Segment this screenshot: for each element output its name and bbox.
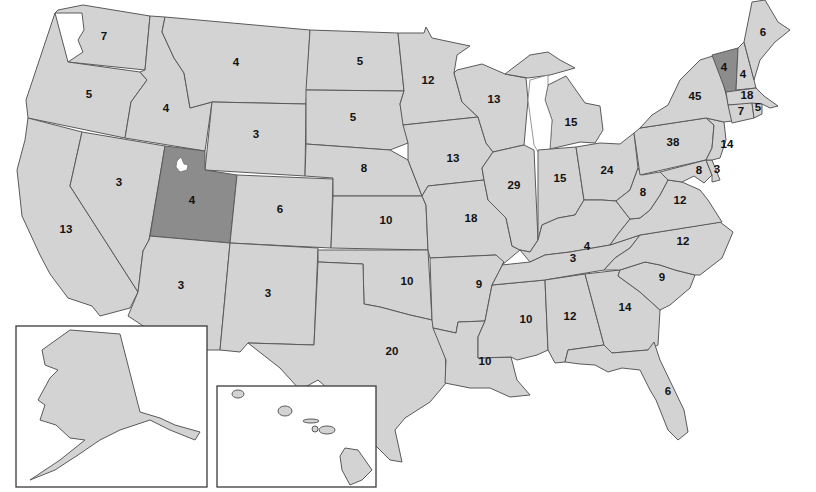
state-label-ms: 10 — [520, 313, 533, 325]
state-label-tx: 20 — [386, 345, 399, 357]
state-michigan-upper[interactable] — [505, 52, 575, 78]
state-label-ar: 9 — [476, 278, 482, 290]
state-label-or: 5 — [86, 88, 93, 100]
state-label-mi: 15 — [565, 116, 578, 128]
state-label-al: 12 — [564, 310, 577, 322]
state-label-id: 4 — [163, 102, 170, 114]
state-label-ut: 4 — [189, 194, 196, 206]
state-label-ks: 10 — [380, 214, 393, 226]
state-label-nh: 4 — [740, 68, 747, 80]
state-michigan-lower[interactable] — [545, 76, 603, 149]
state-south-dakota[interactable] — [306, 90, 408, 150]
state-label-wv: 8 — [640, 186, 647, 198]
state-label-co: 6 — [277, 203, 283, 215]
state-label-ca: 13 — [60, 223, 73, 235]
state-label-az: 3 — [178, 279, 184, 291]
state-label-nv: 3 — [116, 176, 122, 188]
state-label-tn: 3 — [570, 252, 576, 264]
state-maine[interactable] — [744, 0, 790, 80]
state-label-ct: 7 — [738, 105, 744, 117]
state-label-ne: 8 — [361, 162, 368, 174]
state-label-wa: 7 — [101, 30, 107, 42]
state-label-md: 8 — [696, 164, 703, 176]
us-map: 7513434346335581010201213189101329101515… — [0, 0, 816, 492]
state-label-ma: 18 — [741, 89, 754, 101]
state-label-ny: 45 — [689, 90, 702, 102]
state-label-wi: 13 — [488, 93, 501, 105]
state-label-il: 29 — [508, 179, 521, 191]
state-label-me: 6 — [760, 26, 766, 38]
state-north-dakota[interactable] — [306, 30, 404, 91]
state-label-mn: 12 — [422, 74, 435, 86]
state-label-vt: 4 — [721, 61, 728, 73]
state-label-ga: 14 — [619, 301, 632, 313]
state-label-in: 15 — [554, 172, 567, 184]
state-label-mo: 18 — [465, 212, 478, 224]
state-label-wy: 3 — [253, 128, 259, 140]
state-label-ri: 5 — [755, 101, 762, 113]
state-label-nm: 3 — [265, 287, 271, 299]
state-label-la: 10 — [479, 355, 492, 367]
state-label-pa: 38 — [667, 136, 680, 148]
state-label-fl: 6 — [665, 385, 671, 397]
state-label-nc: 12 — [677, 235, 690, 247]
state-label-ok: 10 — [401, 275, 414, 287]
state-label-ky: 4 — [584, 240, 591, 252]
state-label-sd: 5 — [350, 111, 357, 123]
state-label-sc: 9 — [659, 271, 665, 283]
state-label-nj: 14 — [721, 138, 734, 150]
state-label-nd: 5 — [357, 55, 364, 67]
state-label-va: 12 — [674, 194, 687, 206]
state-label-oh: 24 — [601, 164, 614, 176]
state-label-mt: 4 — [233, 56, 240, 68]
state-label-de: 3 — [714, 163, 720, 175]
state-label-ia: 13 — [447, 152, 460, 164]
